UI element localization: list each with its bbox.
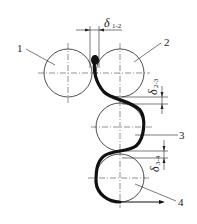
gap-label-3-4: δ 3-4 [148,155,162,172]
roll-2 [92,43,150,102]
svg-text:3-4: 3-4 [154,155,162,165]
gap-label-2-3: δ 2-3 [146,78,160,95]
roll-label-3: 3 [179,129,185,141]
roll-label-4: 4 [178,196,184,208]
svg-text:δ: δ [104,16,110,30]
svg-text:δ: δ [148,166,162,172]
roll-label-1: 1 [17,42,23,54]
gap-dimension-2-3 [122,86,168,114]
leader-line-2 [134,43,161,62]
roll-label-2: 2 [164,36,170,48]
gap-dimension-1-2 [76,26,122,68]
svg-text:2-3: 2-3 [152,78,160,88]
leader-line-4 [135,184,176,201]
gap-label-1-2: δ 1-2 [104,16,122,30]
svg-text:1-2: 1-2 [112,22,122,30]
strip [91,55,165,204]
roll-gap-diagram: 1 2 3 4 δ 1-2 δ 2-3 δ 3-4 [0,0,197,224]
svg-text:δ: δ [146,89,160,95]
roll-1 [38,43,98,103]
